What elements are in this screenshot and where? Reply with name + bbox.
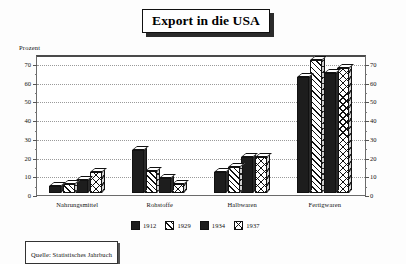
axis-minor-tick-right bbox=[365, 74, 367, 75]
bar-rohstoffe-1934[interactable] bbox=[159, 178, 171, 193]
axis-minor-tick-left bbox=[35, 131, 37, 132]
bar-side-face bbox=[144, 146, 147, 193]
bar-front-face bbox=[228, 167, 240, 193]
axis-minor-tick-right bbox=[365, 112, 367, 113]
axis-tick-right bbox=[365, 121, 369, 122]
axis-tick-left bbox=[33, 159, 37, 160]
chart-title-container: Export in die USA bbox=[142, 9, 270, 33]
axis-minor-tick-left bbox=[35, 187, 37, 188]
bar-side-face bbox=[322, 56, 325, 193]
bar-halbwaren-1929[interactable] bbox=[228, 167, 240, 193]
axis-tick-left bbox=[33, 196, 37, 197]
axis-tick-right bbox=[365, 65, 369, 66]
legend-swatch-crosshatch-icon bbox=[234, 221, 243, 230]
x-axis-label-2: Halbwaren bbox=[201, 201, 284, 208]
y-axis-unit-label: Prozent bbox=[19, 44, 40, 51]
axis-minor-tick-right bbox=[365, 168, 367, 169]
bar-front-face bbox=[255, 157, 267, 193]
y-axis-tick-label-left: 30 bbox=[9, 136, 31, 143]
bar-front-face bbox=[297, 77, 309, 193]
bar-side-face bbox=[253, 153, 256, 193]
axis-minor-tick-right bbox=[365, 187, 367, 188]
source-note-container: Quelle: Statistisches Jahrbuch bbox=[25, 241, 118, 264]
axis-minor-tick-left bbox=[35, 168, 37, 169]
axis-tick-right bbox=[365, 196, 369, 197]
bar-front-face bbox=[132, 150, 144, 193]
bar-side-face bbox=[309, 73, 312, 193]
bar-group bbox=[132, 57, 185, 195]
axis-minor-tick-left bbox=[35, 112, 37, 113]
axis-minor-tick-left bbox=[35, 74, 37, 75]
bar-front-face bbox=[159, 178, 171, 193]
source-box: Quelle: Statistisches Jahrbuch bbox=[25, 241, 118, 264]
y-axis-tick-label-left: 10 bbox=[9, 173, 31, 180]
legend-item-1912[interactable]: 1912 bbox=[131, 221, 156, 230]
bar-rohstoffe-1912[interactable] bbox=[132, 150, 144, 193]
legend-label: 1929 bbox=[177, 222, 190, 229]
bar-group bbox=[49, 57, 102, 195]
bar-side-face bbox=[336, 69, 339, 193]
y-axis-tick-label-left: 50 bbox=[9, 98, 31, 105]
bar-side-face bbox=[240, 163, 243, 193]
y-axis-tick-label-right: 50 bbox=[370, 98, 392, 105]
legend-item-1937[interactable]: 1937 bbox=[234, 221, 259, 230]
y-axis-tick-label-left: 0 bbox=[9, 192, 31, 199]
axis-tick-right bbox=[365, 140, 369, 141]
axis-tick-left bbox=[33, 65, 37, 66]
y-axis-tick-label-right: 0 bbox=[370, 192, 392, 199]
legend-swatch-diagonal-icon bbox=[165, 221, 174, 230]
bar-fertigwaren-1934[interactable] bbox=[324, 73, 336, 193]
x-axis-label-3: Fertigwaren bbox=[284, 201, 367, 208]
bar-side-face bbox=[102, 168, 105, 193]
axis-minor-tick-right bbox=[365, 149, 367, 150]
axis-tick-right bbox=[365, 102, 369, 103]
legend-label: 1937 bbox=[246, 222, 259, 229]
legend-swatch-solid-icon bbox=[131, 221, 140, 230]
axis-minor-tick-left bbox=[35, 149, 37, 150]
legend-label: 1934 bbox=[212, 222, 225, 229]
axis-tick-right bbox=[365, 84, 369, 85]
bar-side-face bbox=[267, 153, 270, 193]
y-axis-tick-label-left: 70 bbox=[9, 61, 31, 68]
axis-tick-left bbox=[33, 121, 37, 122]
x-axis-label-0: Nahrungsmittel bbox=[36, 201, 119, 208]
y-axis-tick-label-right: 20 bbox=[370, 155, 392, 162]
y-axis-tick-label-right: 40 bbox=[370, 117, 392, 124]
y-axis-tick-label-left: 40 bbox=[9, 117, 31, 124]
chart-figure: Export in die USA Prozent 00101020203030… bbox=[0, 0, 406, 264]
page-title: Export in die USA bbox=[152, 13, 260, 29]
axis-minor-tick-right bbox=[365, 93, 367, 94]
axis-minor-tick-right bbox=[365, 131, 367, 132]
axis-minor-tick-left bbox=[35, 93, 37, 94]
x-axis-label-1: Rohstoffe bbox=[119, 201, 202, 208]
axis-tick-left bbox=[33, 102, 37, 103]
y-axis-tick-label-left: 60 bbox=[9, 80, 31, 87]
bar-front-face bbox=[214, 172, 226, 193]
bar-nahrungsmittel-1912[interactable] bbox=[49, 186, 61, 193]
bar-fertigwaren-1912[interactable] bbox=[297, 77, 309, 193]
bar-front-face bbox=[49, 186, 61, 193]
y-axis-tick-label-right: 10 bbox=[370, 173, 392, 180]
legend-item-1934[interactable]: 1934 bbox=[200, 221, 225, 230]
bar-halbwaren-1937[interactable] bbox=[255, 157, 267, 193]
bar-nahrungsmittel-1929[interactable] bbox=[63, 184, 75, 193]
axis-tick-left bbox=[33, 140, 37, 141]
axis-tick-left bbox=[33, 177, 37, 178]
title-box: Export in die USA bbox=[142, 9, 270, 33]
bar-group bbox=[214, 57, 267, 195]
axis-tick-left bbox=[33, 84, 37, 85]
bar-halbwaren-1912[interactable] bbox=[214, 172, 226, 193]
axis-tick-right bbox=[365, 159, 369, 160]
bar-group bbox=[297, 57, 350, 195]
y-axis-tick-label-right: 70 bbox=[370, 61, 392, 68]
legend-item-1929[interactable]: 1929 bbox=[165, 221, 190, 230]
y-axis-tick-label-right: 30 bbox=[370, 136, 392, 143]
plot-area: 001010202030304040505060607070 bbox=[36, 55, 366, 196]
bar-side-face bbox=[349, 64, 352, 193]
y-axis-tick-label-right: 60 bbox=[370, 80, 392, 87]
legend-swatch-solid-icon bbox=[200, 221, 209, 230]
bar-front-face bbox=[324, 73, 336, 193]
y-axis-tick-label-left: 20 bbox=[9, 155, 31, 162]
chart-legend: 1912192919341937 bbox=[131, 219, 260, 232]
axis-tick-right bbox=[365, 177, 369, 178]
